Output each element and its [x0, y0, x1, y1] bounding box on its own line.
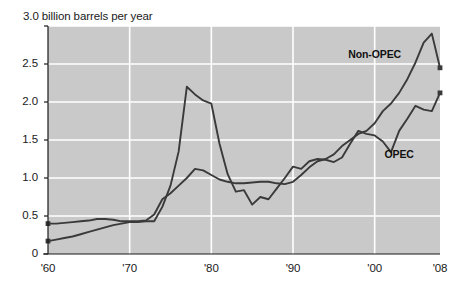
- x-tick-label: '90: [286, 262, 301, 274]
- oil-production-chart: 3.0 billion barrels per year 00.51.01.52…: [0, 0, 466, 291]
- y-tick-label: 2.0: [4, 95, 38, 107]
- y-tick-label: 2.5: [4, 57, 38, 69]
- x-tick-label: '60: [41, 262, 56, 274]
- series-label-non-opec: Non-OPEC: [348, 48, 401, 60]
- y-tick-label: 0: [4, 247, 38, 259]
- y-tick-label: 1.5: [4, 133, 38, 145]
- x-tick-label: '00: [367, 262, 382, 274]
- series-label-opec: OPEC: [384, 148, 413, 160]
- x-tick-label: '80: [204, 262, 219, 274]
- plot-canvas: [0, 0, 466, 291]
- x-tick-label: '70: [122, 262, 137, 274]
- y-tick-label: 1.0: [4, 171, 38, 183]
- endpoint-marker: [438, 65, 443, 70]
- endpoint-marker: [438, 90, 443, 95]
- y-tick-label: 0.5: [4, 209, 38, 221]
- x-tick-label: '08: [433, 262, 448, 274]
